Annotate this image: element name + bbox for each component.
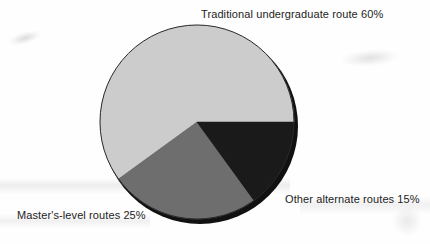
slice-label-other-alternate-routes: Other alternate routes 15% [285,193,420,205]
slice-label-masters-level-routes: Master's-level routes 25% [17,209,146,221]
slice-label-traditional-undergraduate-route: Traditional undergraduate route 60% [201,8,383,20]
pie-chart-graphic [0,0,430,244]
pie-chart-figure: Traditional undergraduate route 60% Mast… [0,0,430,244]
pie-slices [100,25,294,219]
